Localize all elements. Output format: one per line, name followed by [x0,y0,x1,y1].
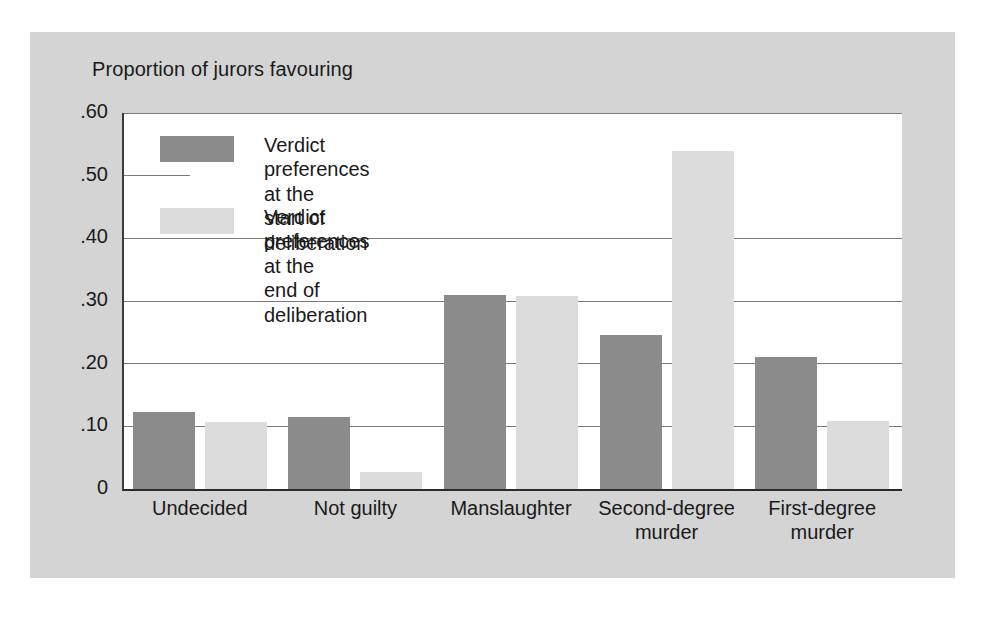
legend-swatch [160,136,234,162]
y-tick-label: .10 [52,413,108,436]
x-category-label: Manslaughter [433,497,589,521]
x-category-label: First-degree murder [744,497,900,544]
legend-swatch [160,208,234,234]
bar [516,296,578,489]
chart-title: Proportion of jurors favouring [92,58,353,81]
bar [444,295,506,489]
x-category-label: Undecided [122,497,278,521]
bar [672,151,734,489]
bar [600,335,662,489]
x-category-label: Second-degree murder [589,497,745,544]
y-tick-label: .40 [52,225,108,248]
x-category-label: Not guilty [278,497,434,521]
bar [827,421,889,489]
y-tick-label: .20 [52,351,108,374]
bar [205,422,267,489]
chart-figure: Proportion of jurors favouring .60.50.40… [0,0,986,617]
y-tick-label: .30 [52,288,108,311]
bar [360,472,422,489]
y-tick-label: .60 [52,100,108,123]
legend-item[interactable]: Verdict preferences at the end of delibe… [160,205,370,327]
bar [288,417,350,489]
legend-label: Verdict preferences at the end of delibe… [264,205,370,327]
y-tick-label: .50 [52,163,108,186]
y-tick-label: 0 [52,476,108,499]
bar [133,412,195,489]
bar [755,357,817,489]
